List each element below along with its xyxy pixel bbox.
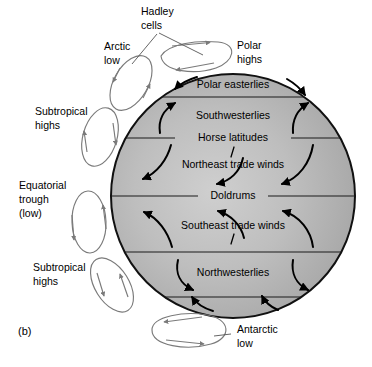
label-hadley-cells: Hadley cells <box>141 5 174 31</box>
label-arctic-low-line2: low <box>104 54 120 66</box>
label-antarctic-low-line2: low <box>237 337 253 349</box>
label-polar-highs-line2: highs <box>237 53 262 65</box>
wind-belt-label-southwesterlies: Southwesterlies <box>196 109 270 121</box>
cell-loop-equatorial-trough <box>71 190 107 253</box>
cell-arrow-arctic-low-left <box>113 68 120 82</box>
cell-arrow-subtropical-south-left <box>97 273 104 296</box>
circulation-cell-equatorial-trough <box>71 190 107 253</box>
cell-arrow-polar-south-bottom <box>166 340 204 344</box>
leader-antarctic-low <box>214 334 231 336</box>
label-hadley-cells-line2: cells <box>141 19 162 31</box>
cell-arrow-subtropical-north-right <box>113 123 116 145</box>
cell-loop-polar-north <box>161 42 232 72</box>
label-equatorial-trough-line1: Equatorial <box>19 179 66 191</box>
atmospheric-circulation-figure: Polar easterlies Southwesterlies Horse l… <box>0 0 372 367</box>
wind-belt-label-horse-latitudes: Horse latitudes <box>198 131 268 143</box>
globe: Polar easterlies Southwesterlies Horse l… <box>111 74 355 318</box>
label-subtropical-highs-south: Subtropical highs <box>33 261 86 287</box>
label-polar-highs-line1: Polar <box>237 39 262 51</box>
label-antarctic-low-line1: Antarctic <box>237 323 278 335</box>
label-equatorial-trough: Equatorial trough (low) <box>19 179 66 219</box>
label-polar-highs: Polar highs <box>237 39 262 65</box>
circulation-cell-polar-north <box>161 42 232 72</box>
label-subtropical-highs-south-line1: Subtropical <box>33 261 86 273</box>
panel-tag: (b) <box>18 325 31 337</box>
label-subtropical-highs-south-line2: highs <box>33 275 58 287</box>
cell-arrow-polar-south-top <box>164 317 202 322</box>
wind-belt-label-northeast-trade-winds: Northeast trade winds <box>182 158 284 170</box>
wind-belt-label-polar-easterlies: Polar easterlies <box>197 78 269 90</box>
wind-belt-label-doldrums: Doldrums <box>211 189 256 201</box>
circulation-cell-polar-south <box>152 314 226 347</box>
wind-belt-label-northwesterlies: Northwesterlies <box>197 266 269 278</box>
cell-arrow-arctic-low-right <box>143 84 150 98</box>
wind-belt-label-southeast-trade-winds: Southeast trade winds <box>181 219 285 231</box>
label-subtropical-highs-north: Subtropical highs <box>35 105 88 131</box>
label-hadley-cells-line1: Hadley <box>141 5 174 17</box>
label-subtropical-highs-north-line1: Subtropical <box>35 105 88 117</box>
cell-arrow-subtropical-north-left <box>84 131 87 152</box>
label-equatorial-trough-line3: (low) <box>19 207 42 219</box>
label-arctic-low-line1: Arctic <box>104 40 130 52</box>
label-antarctic-low: Antarctic low <box>237 323 278 349</box>
cell-arrow-polar-north-bottom <box>176 63 214 70</box>
label-equatorial-trough-line2: trough <box>19 193 49 205</box>
leader-hadley-to-left-cell <box>132 34 157 64</box>
label-subtropical-highs-north-line2: highs <box>35 119 60 131</box>
